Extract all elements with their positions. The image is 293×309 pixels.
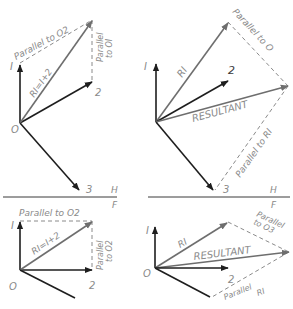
label-h-view: H xyxy=(270,185,277,195)
vector-3 xyxy=(20,270,75,298)
label-v2: 2 xyxy=(228,64,235,77)
panel-bottom-left: O I 2 RI=I+2 Parallel to O2 Parallel to … xyxy=(9,208,114,298)
label-f-view: F xyxy=(271,200,277,210)
label-parallel-top: Parallel to O xyxy=(231,7,276,54)
panel-top-left: O I 2 3 RI=I+2 Parallel to O2 Parallel t… xyxy=(10,20,114,195)
label-v2: 2 xyxy=(228,274,234,285)
label-v1: I xyxy=(144,61,147,72)
label-origin: O xyxy=(143,268,151,279)
label-parallel-side-1: Parallel xyxy=(96,240,105,270)
label-resultant: RESULTANT xyxy=(191,98,250,124)
vector-r1 xyxy=(20,222,92,270)
vector-3 xyxy=(156,122,213,190)
label-r1: RI xyxy=(175,65,190,79)
label-origin: O xyxy=(9,281,17,292)
vector-3 xyxy=(155,268,210,297)
label-parallel-top: Parallel to O2 xyxy=(19,208,80,218)
fold-line-right: H F xyxy=(148,185,290,210)
panel-bottom-right: O I 2 RI RESULTANT Parallel to O3 Parall… xyxy=(143,210,289,302)
label-parallel-side-2: to OI xyxy=(105,38,114,58)
label-v1: I xyxy=(10,61,13,72)
label-v3: 3 xyxy=(223,184,229,195)
label-h-view: H xyxy=(111,185,118,195)
dashed-parallel-to-o2 xyxy=(20,20,92,63)
label-v1: I xyxy=(146,225,149,236)
dashed-parallel-to-r1 xyxy=(215,86,288,190)
label-parallel-bottom-2: RI xyxy=(255,286,266,298)
label-f-view: F xyxy=(112,200,118,210)
label-parallel-top: Parallel to O2 xyxy=(12,24,71,61)
label-origin: O xyxy=(11,124,19,135)
label-v3: 3 xyxy=(86,184,92,195)
fold-line-left: H F xyxy=(3,185,118,210)
label-parallel-side-1: Parallel xyxy=(96,32,105,62)
label-v2: 2 xyxy=(95,87,101,98)
label-parallel-side-2: to O2 xyxy=(105,240,114,262)
vector-3 xyxy=(20,123,79,190)
label-parallel-bottom-1: Parallel xyxy=(222,282,253,302)
label-v1: I xyxy=(11,220,14,231)
vector-addition-diagram: O I 2 3 RI=I+2 Parallel to O2 Parallel t… xyxy=(0,0,293,309)
panel-top-right: I 2 3 RI RESULTANT Parallel to O Paralle… xyxy=(144,7,288,195)
label-v2: 2 xyxy=(89,280,95,291)
